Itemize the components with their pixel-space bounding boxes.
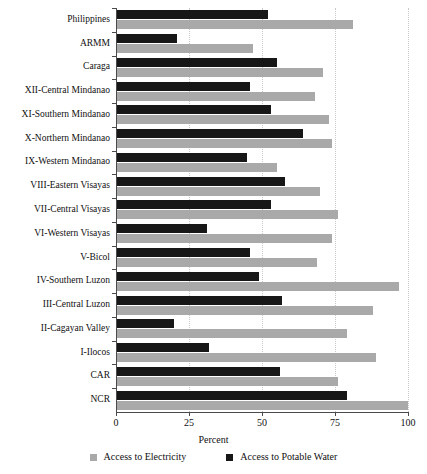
bar-access-to-potable-water: [116, 391, 347, 400]
category-group: CAR: [116, 364, 408, 388]
category-group: IV-Southern Luzon: [116, 269, 408, 293]
chart-container: PhilippinesARMMCaragaXII-Central Mindana…: [0, 0, 427, 474]
bar-access-to-potable-water: [116, 272, 259, 281]
bar-access-to-potable-water: [116, 153, 247, 162]
bar-access-to-potable-water: [116, 82, 250, 91]
y-axis-line: [116, 8, 117, 412]
bar-access-to-potable-water: [116, 177, 285, 186]
x-axis-tick: [116, 412, 117, 416]
bar-access-to-electricity: [116, 115, 329, 124]
category-group: X-Northern Mindanao: [116, 127, 408, 151]
x-axis-tick: [408, 412, 409, 416]
x-axis-title: Percent: [0, 434, 427, 445]
bar-access-to-electricity: [116, 20, 353, 29]
category-group: VI-Western Visayas: [116, 222, 408, 246]
category-label: IV-Southern Luzon: [37, 277, 110, 287]
x-axis-tick: [262, 412, 263, 416]
bar-access-to-potable-water: [116, 224, 207, 233]
legend-swatch-icon: [226, 454, 233, 461]
category-label: XI-Southern Mindanao: [22, 110, 110, 120]
bar-access-to-electricity: [116, 163, 277, 172]
bar-access-to-electricity: [116, 139, 332, 148]
legend-item: Access to Electricity: [90, 452, 187, 462]
bar-access-to-potable-water: [116, 105, 271, 114]
category-label: Caraga: [83, 63, 110, 73]
category-label: VII-Central Visayas: [34, 205, 110, 215]
category-group: VII-Central Visayas: [116, 198, 408, 222]
category-group: VIII-Eastern Visayas: [116, 174, 408, 198]
legend-swatch-icon: [90, 454, 97, 461]
legend-label: Access to Potable Water: [240, 452, 337, 462]
legend-item: Access to Potable Water: [226, 452, 337, 462]
bar-access-to-electricity: [116, 258, 317, 267]
x-axis-tick-label: 0: [114, 418, 119, 428]
bar-access-to-electricity: [116, 377, 338, 386]
category-group: V-Bicol: [116, 246, 408, 270]
category-label: Philippines: [67, 15, 110, 25]
bar-access-to-potable-water: [116, 34, 177, 43]
category-label: II-Cagayan Valley: [41, 324, 110, 334]
category-label: X-Northern Mindanao: [25, 134, 110, 144]
x-axis-tick: [189, 412, 190, 416]
bar-access-to-electricity: [116, 210, 338, 219]
bar-access-to-electricity: [116, 353, 376, 362]
bar-access-to-potable-water: [116, 58, 277, 67]
legend-label: Access to Electricity: [104, 452, 187, 462]
category-group: I-Ilocos: [116, 341, 408, 365]
bar-access-to-electricity: [116, 44, 253, 53]
gridline: [408, 8, 409, 412]
category-label: VIII-Eastern Visayas: [30, 181, 110, 191]
category-label: III-Central Luzon: [43, 300, 110, 310]
category-label: CAR: [90, 372, 110, 382]
bar-access-to-potable-water: [116, 296, 282, 305]
bar-access-to-electricity: [116, 329, 347, 338]
bar-access-to-electricity: [116, 234, 332, 243]
bar-access-to-electricity: [116, 306, 373, 315]
category-group: Philippines: [116, 8, 408, 32]
x-axis-tick: [335, 412, 336, 416]
category-label: IX-Western Mindanao: [25, 158, 110, 168]
category-label: XII-Central Mindanao: [25, 86, 110, 96]
category-label: I-Ilocos: [80, 348, 110, 358]
chart-legend: Access to ElectricityAccess to Potable W…: [0, 452, 427, 462]
bar-access-to-electricity: [116, 282, 399, 291]
bar-access-to-electricity: [116, 187, 320, 196]
x-axis-tick-label: 25: [184, 418, 194, 428]
bar-access-to-potable-water: [116, 200, 271, 209]
category-group: II-Cagayan Valley: [116, 317, 408, 341]
category-label: V-Bicol: [80, 253, 110, 263]
category-label: NCR: [90, 395, 110, 405]
category-group: III-Central Luzon: [116, 293, 408, 317]
category-group: Caraga: [116, 56, 408, 80]
category-label: ARMM: [80, 39, 110, 49]
bar-access-to-potable-water: [116, 343, 209, 352]
bar-access-to-potable-water: [116, 129, 303, 138]
category-group: IX-Western Mindanao: [116, 151, 408, 175]
category-group: XI-Southern Mindanao: [116, 103, 408, 127]
bar-access-to-potable-water: [116, 248, 250, 257]
bar-access-to-electricity: [116, 92, 315, 101]
bar-access-to-potable-water: [116, 10, 268, 19]
bar-access-to-potable-water: [116, 319, 174, 328]
x-axis-tick-label: 100: [401, 418, 416, 428]
x-axis-tick-label: 50: [257, 418, 267, 428]
x-axis-tick-label: 75: [330, 418, 340, 428]
bar-access-to-electricity: [116, 401, 408, 410]
category-group: ARMM: [116, 32, 408, 56]
category-group: NCR: [116, 388, 408, 412]
bar-access-to-electricity: [116, 68, 323, 77]
category-label: VI-Western Visayas: [34, 229, 110, 239]
category-group: XII-Central Mindanao: [116, 79, 408, 103]
plot-area: PhilippinesARMMCaragaXII-Central Mindana…: [116, 8, 408, 412]
bar-access-to-potable-water: [116, 367, 280, 376]
